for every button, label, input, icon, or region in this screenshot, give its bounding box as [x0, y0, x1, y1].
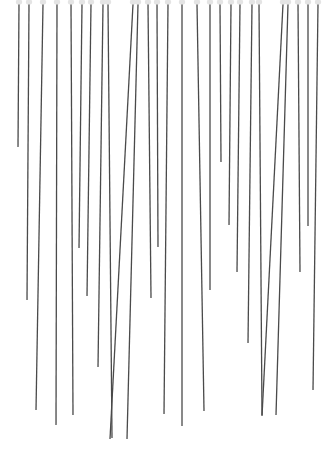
- pin-head: [179, 0, 185, 5]
- pin: [68, 0, 74, 415]
- pin: [145, 0, 151, 298]
- pin-shaft: [229, 4, 231, 225]
- pin-shaft: [98, 4, 103, 367]
- pin: [207, 0, 213, 290]
- pin-head: [135, 0, 141, 5]
- pin-shaft: [248, 4, 252, 343]
- pin: [305, 0, 311, 226]
- pin: [217, 0, 223, 162]
- pin-shaft: [259, 4, 262, 415]
- pin-shaft: [108, 4, 112, 438]
- pin: [237, 0, 243, 272]
- pin-head: [217, 0, 223, 5]
- pin-shaft: [237, 4, 240, 272]
- pin: [228, 0, 234, 225]
- pin-head: [26, 0, 32, 5]
- pin-head: [105, 0, 111, 5]
- pin-shaft: [148, 4, 151, 298]
- pin-head: [194, 0, 200, 5]
- pin-head: [154, 0, 160, 5]
- pin: [276, 0, 291, 415]
- pin-head: [145, 0, 151, 5]
- pin-head: [40, 0, 46, 5]
- pin: [87, 0, 94, 296]
- pin: [16, 0, 22, 147]
- pin: [36, 0, 46, 410]
- pin: [79, 0, 85, 248]
- pin: [105, 0, 112, 438]
- pin-head: [249, 0, 255, 5]
- pin-head: [295, 0, 301, 5]
- pin-head: [79, 0, 85, 5]
- pin-head: [207, 0, 213, 5]
- pin: [54, 0, 60, 425]
- pin: [295, 0, 301, 272]
- pin-head: [228, 0, 234, 5]
- pins-photo: [0, 0, 331, 453]
- pin-head: [68, 0, 74, 5]
- pin-shaft: [164, 4, 168, 414]
- pin-head: [315, 0, 321, 5]
- pin-shaft: [127, 4, 138, 439]
- pin-shaft: [18, 4, 19, 147]
- pin-head: [256, 0, 262, 5]
- pin-shaft: [298, 4, 300, 272]
- pin-shaft: [157, 4, 158, 247]
- pin-head: [285, 0, 291, 5]
- pins-illustration: [0, 0, 331, 453]
- pin-shaft: [87, 4, 91, 296]
- pin-head: [165, 0, 171, 5]
- pin-shaft: [220, 4, 221, 162]
- pin: [248, 0, 255, 343]
- pin: [26, 0, 32, 300]
- pin-head: [305, 0, 311, 5]
- pin-shaft: [27, 4, 29, 300]
- pin: [164, 0, 171, 414]
- pin: [154, 0, 160, 247]
- pin-shaft: [313, 4, 318, 390]
- pin-shaft: [71, 4, 73, 415]
- pin-shaft: [197, 4, 204, 411]
- pin: [98, 0, 106, 367]
- pin: [313, 0, 321, 390]
- pin-shaft: [276, 4, 288, 415]
- pin-shaft: [56, 4, 57, 425]
- pin-head: [16, 0, 22, 5]
- pin-shaft: [79, 4, 82, 248]
- pin: [179, 0, 185, 426]
- pin-head: [54, 0, 60, 5]
- pin: [194, 0, 204, 411]
- pin-shaft: [110, 4, 133, 439]
- pin-head: [88, 0, 94, 5]
- pin: [256, 0, 262, 415]
- pin-shaft: [262, 4, 283, 416]
- pin-shaft: [36, 4, 43, 410]
- pin-head: [237, 0, 243, 5]
